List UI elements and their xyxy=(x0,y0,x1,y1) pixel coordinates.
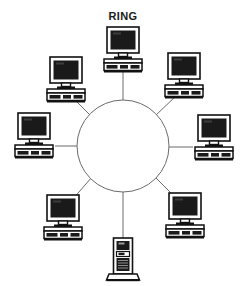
node-lower-right[interactable] xyxy=(166,193,204,239)
desktop-computer-icon xyxy=(195,115,233,161)
desktop-computer-icon xyxy=(165,53,203,99)
desktop-computer-icon xyxy=(44,195,82,241)
network-canvas xyxy=(0,0,246,286)
desktop-computer-icon xyxy=(15,113,53,159)
node-upper-right[interactable] xyxy=(165,53,203,99)
desktop-computer-icon xyxy=(47,57,85,103)
desktop-computer-icon xyxy=(104,27,142,73)
link-upper-right xyxy=(155,96,176,116)
node-left[interactable] xyxy=(15,113,53,159)
node-upper-left[interactable] xyxy=(47,57,85,103)
node-top[interactable] xyxy=(104,27,142,73)
node-right[interactable] xyxy=(195,115,233,161)
desktop-computer-icon xyxy=(166,193,204,239)
node-lower-left[interactable] xyxy=(44,195,82,241)
ring-backbone xyxy=(77,100,169,192)
tower-server-icon xyxy=(107,238,140,281)
network-diagram: RING xyxy=(0,0,246,286)
node-bottom-server[interactable] xyxy=(107,238,140,281)
